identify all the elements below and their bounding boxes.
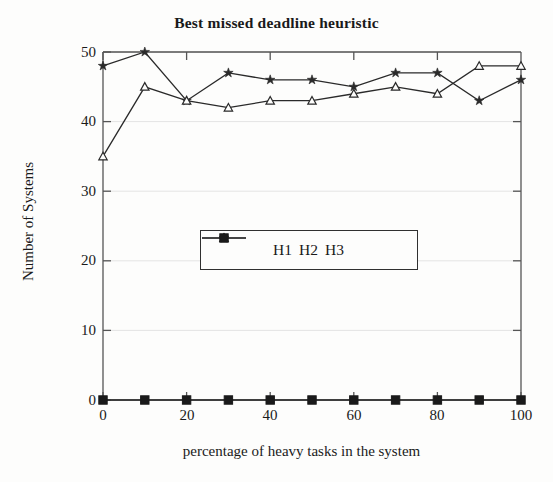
data-point: [140, 47, 150, 56]
data-point: [391, 68, 401, 77]
data-point: [391, 83, 399, 91]
data-point: [474, 96, 484, 105]
h3-marker-icon: [201, 231, 247, 245]
data-point: [475, 396, 483, 404]
data-point: [433, 396, 441, 404]
data-point: [99, 396, 107, 404]
data-point: [141, 396, 149, 404]
data-point: [307, 75, 317, 84]
data-point: [99, 152, 107, 160]
legend-label-h1: H1: [270, 241, 296, 259]
legend-label-h3: H3: [322, 241, 348, 259]
legend-label-h2: H2: [296, 241, 322, 259]
data-point: [141, 83, 149, 91]
data-point: [308, 396, 316, 404]
data-point: [265, 75, 275, 84]
data-point: [266, 396, 274, 404]
data-point: [182, 396, 190, 404]
chart-legend: H1 H2 H3: [200, 230, 418, 270]
chart-figure: Best missed deadline heuristic Number of…: [0, 0, 553, 482]
legend-entry-h3: H3: [322, 241, 348, 259]
series-h3: [99, 396, 525, 404]
legend-entry-h2: H2: [296, 241, 322, 259]
legend-entry-h1: H1: [270, 241, 296, 259]
data-point: [350, 396, 358, 404]
data-series-layer: [98, 47, 526, 404]
data-point: [391, 396, 399, 404]
data-point: [224, 396, 232, 404]
data-point: [517, 396, 525, 404]
